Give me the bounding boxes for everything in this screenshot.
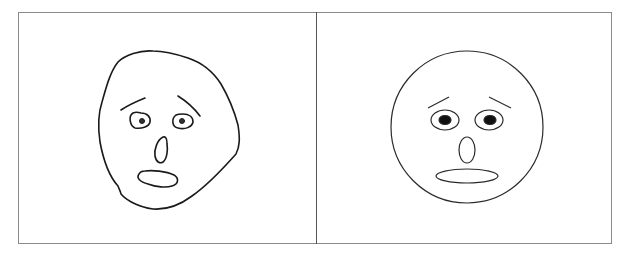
sketch-head-outline	[99, 51, 240, 209]
sketch-right-eyebrow	[178, 96, 200, 116]
sketch-mouth	[138, 171, 178, 187]
schematic-left-pupil	[439, 116, 451, 125]
schematic-head-outline	[391, 51, 543, 203]
left-panel-sketch-face	[99, 51, 240, 209]
sketch-left-pupil	[140, 119, 145, 124]
sketch-left-eyebrow	[121, 98, 145, 110]
right-panel-schematic-face	[391, 51, 543, 203]
schematic-right-eyebrow	[489, 97, 511, 108]
schematic-right-pupil	[484, 116, 496, 125]
schematic-left-eyebrow	[428, 97, 449, 108]
figure-canvas	[0, 0, 627, 253]
sketch-nose	[155, 137, 168, 163]
sketch-right-pupil	[180, 119, 185, 124]
schematic-mouth	[436, 169, 498, 183]
schematic-nose	[459, 137, 475, 163]
